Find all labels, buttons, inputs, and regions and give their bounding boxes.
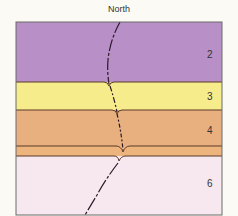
layer-3 (16, 82, 222, 110)
layer-label-4: 4 (207, 125, 213, 136)
layer-label-6: 6 (207, 178, 213, 189)
layer-label-2: 2 (207, 49, 213, 60)
layer-5 (16, 146, 222, 156)
layer-2 (16, 22, 222, 82)
layer-label-3: 3 (207, 91, 213, 102)
layer-4 (16, 110, 222, 146)
layer-6 (16, 156, 222, 215)
stratigraphy-diagram: 2 3 4 6 (0, 0, 238, 216)
